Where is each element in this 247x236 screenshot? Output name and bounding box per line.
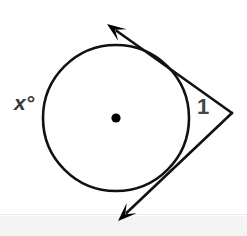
geometry-figure: x° 1 xyxy=(0,0,247,236)
lower-tangent-ray xyxy=(127,113,232,213)
geometry-canvas xyxy=(0,0,247,236)
upper-tangent-ray xyxy=(117,31,232,113)
center-dot-icon xyxy=(111,113,120,122)
arc-angle-label: x° xyxy=(14,92,34,113)
vertex-angle-label: 1 xyxy=(197,96,209,118)
